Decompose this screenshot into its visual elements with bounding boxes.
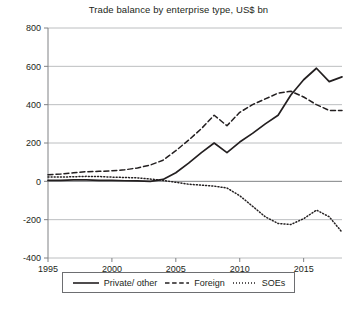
chart-figure: Trade balance by enterprise type, US$ bn… bbox=[0, 0, 357, 312]
legend-swatch-solid bbox=[72, 279, 100, 287]
x-tick-label: 2015 bbox=[294, 264, 314, 274]
x-tick-marks bbox=[48, 258, 304, 262]
caption-strip bbox=[0, 300, 357, 312]
series-line-soes bbox=[48, 176, 342, 232]
series-line-private-other bbox=[48, 68, 342, 181]
legend-swatch-dashed bbox=[164, 279, 190, 287]
y-tick-label: 400 bbox=[26, 100, 41, 110]
y-tick-label: -200 bbox=[23, 215, 41, 225]
y-tick-label: 600 bbox=[26, 62, 41, 72]
chart-legend: Private/ other Foreign SOEs bbox=[62, 272, 295, 293]
series-line-foreign bbox=[48, 91, 342, 174]
y-tick-label: 800 bbox=[26, 23, 41, 33]
legend-item-soes: SOEs bbox=[232, 278, 286, 288]
y-tick-label: -400 bbox=[23, 253, 41, 263]
legend-label-private-other: Private/ other bbox=[104, 278, 158, 288]
legend-item-foreign: Foreign bbox=[164, 278, 225, 288]
legend-label-foreign: Foreign bbox=[194, 278, 225, 288]
series-paths-group bbox=[48, 68, 342, 232]
y-tick-labels: 8006004002000-200-400 bbox=[23, 23, 41, 263]
y-tick-label: 200 bbox=[26, 138, 41, 148]
legend-label-soes: SOEs bbox=[262, 278, 286, 288]
legend-swatch-dotted bbox=[232, 279, 258, 287]
gridlines-group bbox=[48, 28, 342, 258]
y-tick-marks bbox=[44, 28, 48, 258]
plot-canvas: 8006004002000-200-400 199520002005201020… bbox=[0, 0, 357, 312]
x-tick-label: 1995 bbox=[38, 264, 58, 274]
y-tick-label: 0 bbox=[36, 177, 41, 187]
legend-item-private-other: Private/ other bbox=[72, 278, 158, 288]
